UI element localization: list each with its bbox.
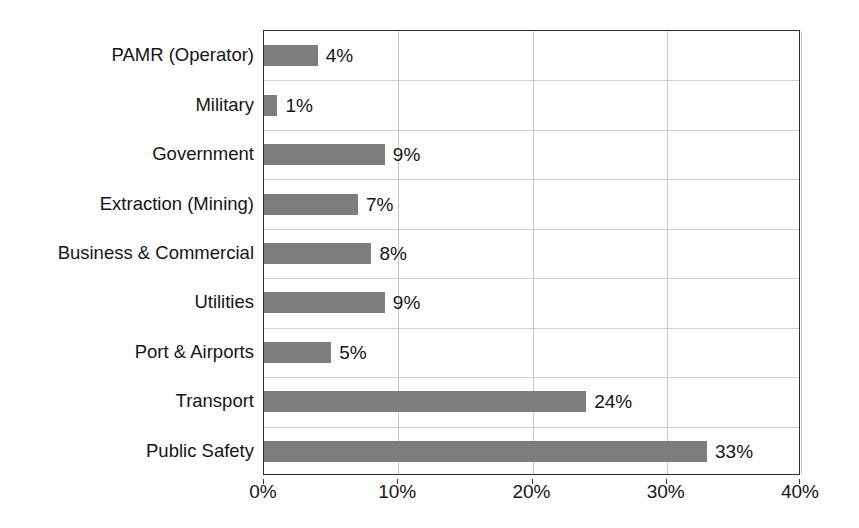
category-label: Government bbox=[11, 143, 263, 164]
gridline-horizontal bbox=[264, 377, 799, 378]
bar-chart-figure: PAMR (Operator)MilitaryGovernmentExtract… bbox=[0, 0, 859, 528]
bar bbox=[264, 391, 586, 412]
bar-value-label: 24% bbox=[594, 391, 632, 412]
gridline-horizontal bbox=[264, 130, 799, 131]
bar bbox=[264, 144, 385, 165]
category-label: Transport bbox=[11, 390, 263, 411]
gridline-vertical bbox=[667, 31, 668, 474]
x-axis-tick-labels: 0%10%20%30%40% bbox=[263, 479, 800, 513]
category-label: Port & Airports bbox=[11, 341, 263, 362]
gridline-horizontal bbox=[264, 278, 799, 279]
bar bbox=[264, 243, 371, 264]
bar-value-label: 8% bbox=[379, 243, 406, 264]
bar-value-label: 5% bbox=[339, 342, 366, 363]
bar-value-label: 4% bbox=[326, 45, 353, 66]
gridline-horizontal bbox=[264, 427, 799, 428]
category-label: Business & Commercial bbox=[11, 242, 263, 263]
bar-value-label: 33% bbox=[715, 441, 753, 462]
bar bbox=[264, 95, 277, 116]
bar-value-label: 9% bbox=[393, 292, 420, 313]
gridline-horizontal bbox=[264, 80, 799, 81]
category-label: PAMR (Operator) bbox=[11, 44, 263, 65]
category-label: Military bbox=[11, 94, 263, 115]
x-axis-tick-label: 10% bbox=[378, 479, 416, 505]
gridline-vertical bbox=[801, 31, 802, 474]
bar bbox=[264, 441, 707, 462]
x-axis-tick-label: 40% bbox=[781, 479, 819, 505]
gridline-horizontal bbox=[264, 179, 799, 180]
bar bbox=[264, 194, 358, 215]
x-axis-tick-label: 20% bbox=[512, 479, 550, 505]
bar-value-label: 7% bbox=[366, 194, 393, 215]
gridline-horizontal bbox=[264, 328, 799, 329]
plot-area: 4%1%9%7%8%9%5%24%33% bbox=[263, 30, 800, 475]
bar-value-label: 9% bbox=[393, 144, 420, 165]
y-axis-category-labels: PAMR (Operator)MilitaryGovernmentExtract… bbox=[0, 30, 263, 475]
bar-value-label: 1% bbox=[285, 95, 312, 116]
category-label: Utilities bbox=[11, 291, 263, 312]
bar bbox=[264, 45, 318, 66]
bar bbox=[264, 292, 385, 313]
category-label: Extraction (Mining) bbox=[11, 193, 263, 214]
x-axis-tick-label: 0% bbox=[249, 479, 276, 505]
gridline-horizontal bbox=[264, 229, 799, 230]
category-label: Public Safety bbox=[11, 440, 263, 461]
x-axis-tick-label: 30% bbox=[647, 479, 685, 505]
bar bbox=[264, 342, 331, 363]
